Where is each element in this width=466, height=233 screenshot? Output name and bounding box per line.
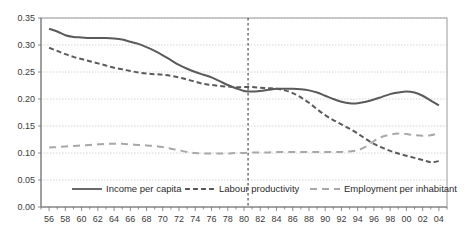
x-tick-label: 00	[401, 214, 411, 224]
x-tick-label: 82	[255, 214, 265, 224]
x-tick-label: 90	[320, 214, 330, 224]
x-tick-label: 02	[418, 214, 428, 224]
x-tick-label: 72	[174, 214, 184, 224]
x-tick-label: 98	[385, 214, 395, 224]
x-tick-label: 64	[109, 214, 119, 224]
x-tick-label: 80	[239, 214, 249, 224]
x-tick-label: 74	[190, 214, 200, 224]
y-tick-label: 0.35	[17, 13, 35, 23]
x-tick-label: 96	[369, 214, 379, 224]
chart-legend: Income per capitaLabour productivityEmpl…	[72, 183, 457, 194]
x-tick-label: 60	[77, 214, 87, 224]
x-tick-label: 66	[125, 214, 135, 224]
y-tick-label: 0.05	[17, 175, 35, 185]
x-tick-label: 70	[158, 214, 168, 224]
x-tick-label: 92	[336, 214, 346, 224]
y-tick-label: 0.20	[17, 94, 35, 104]
plot-background	[0, 0, 466, 233]
y-tick-label: 0.15	[17, 121, 35, 131]
chart-container: 0.000.050.100.150.200.250.300.35 5658606…	[0, 0, 466, 233]
x-tick-label: 56	[44, 214, 54, 224]
x-tick-label: 78	[223, 214, 233, 224]
legend-label-0: Income per capita	[106, 183, 182, 194]
y-tick-label: 0.10	[17, 148, 35, 158]
x-tick-label: 04	[434, 214, 444, 224]
x-tick-label: 84	[271, 214, 281, 224]
y-tick-label: 0.30	[17, 40, 35, 50]
x-tick-label: 76	[207, 214, 217, 224]
x-tick-label: 62	[93, 214, 103, 224]
y-tick-label: 0.25	[17, 67, 35, 77]
line-chart: 0.000.050.100.150.200.250.300.35 5658606…	[0, 0, 466, 233]
legend-label-1: Labour productivity	[219, 183, 300, 194]
legend-label-2: Employment per inhabitant	[344, 183, 457, 194]
x-tick-label: 86	[288, 214, 298, 224]
x-tick-label: 68	[142, 214, 152, 224]
x-tick-label: 58	[60, 214, 70, 224]
y-tick-label: 0.00	[17, 202, 35, 212]
x-tick-label: 88	[304, 214, 314, 224]
x-tick-label: 94	[353, 214, 363, 224]
